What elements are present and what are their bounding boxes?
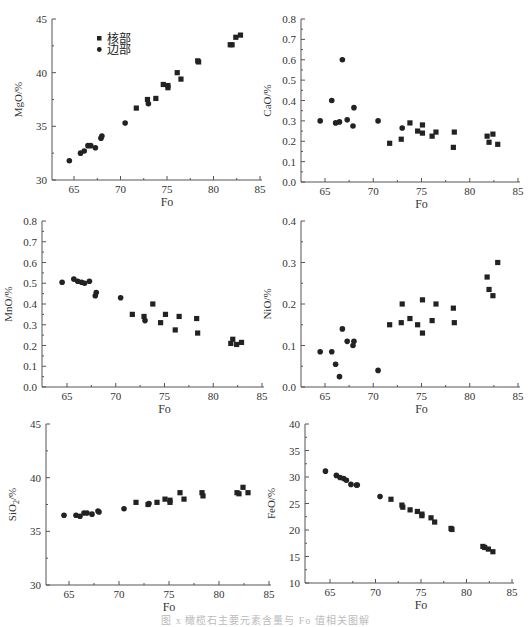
data-point <box>200 493 205 498</box>
data-point <box>173 327 178 332</box>
x-axis-label: Fo <box>415 598 428 612</box>
data-point <box>452 129 457 134</box>
data-point <box>387 141 392 146</box>
data-point <box>348 482 354 488</box>
y-tick-label: 0.1 <box>282 156 296 168</box>
data-point <box>388 497 393 502</box>
y-tick-label: 0.3 <box>282 115 296 127</box>
series-rim <box>317 326 381 379</box>
data-point <box>490 293 495 298</box>
chart-nio: 65707580850.00.10.20.30.4FoNiO/% <box>261 215 524 416</box>
y-tick-label: 0.0 <box>282 381 296 393</box>
data-point <box>399 137 404 142</box>
data-point <box>194 316 199 321</box>
data-point <box>344 477 350 483</box>
legend-rim-label: 边部 <box>107 42 131 57</box>
data-point <box>495 142 500 147</box>
x-tick-label: 80 <box>208 390 220 402</box>
data-point <box>146 501 152 507</box>
data-point <box>161 82 166 87</box>
data-point <box>340 57 346 63</box>
data-point <box>89 511 95 517</box>
data-point <box>118 295 124 301</box>
data-point <box>245 490 250 495</box>
chart-sio2: 657075808530354045FoSiO2/% <box>6 418 275 614</box>
data-point <box>333 361 339 367</box>
x-tick-label: 80 <box>464 390 476 402</box>
data-point <box>177 314 182 319</box>
data-point <box>99 133 105 139</box>
x-tick-label: 85 <box>507 586 519 598</box>
y-tick-label: 0.6 <box>282 54 296 66</box>
data-point <box>420 330 425 335</box>
data-point <box>486 287 491 292</box>
x-tick-label: 75 <box>164 588 176 600</box>
data-point <box>93 290 99 296</box>
chart-mno: 65707580850.00.10.20.30.40.50.60.70.8FoM… <box>2 215 268 416</box>
x-tick-label: 85 <box>513 390 525 402</box>
x-tick-label: 70 <box>110 390 122 402</box>
y-tick-label: 0.2 <box>23 340 37 352</box>
x-tick-label: 70 <box>115 183 127 195</box>
y-tick-label: 0.8 <box>23 215 37 227</box>
series-core <box>387 120 500 150</box>
y-tick-label: 0.3 <box>23 319 37 331</box>
y-tick-label: 20 <box>289 524 301 536</box>
data-point <box>344 117 350 123</box>
data-point <box>415 509 420 514</box>
x-axis-label: Fo <box>158 402 171 416</box>
data-point <box>433 301 438 306</box>
y-tick-label: 0.5 <box>23 277 37 289</box>
y-tick-label: 0.2 <box>282 298 296 310</box>
data-point <box>234 342 239 347</box>
y-tick-label: 45 <box>36 13 48 25</box>
data-point <box>167 500 172 505</box>
data-point <box>165 85 170 90</box>
figure-caption: 图 x 橄榄石主要元素含量与 Fo 值相关图解 <box>0 612 531 627</box>
x-tick-label: 75 <box>416 586 428 598</box>
y-axis-label: MgO/% <box>12 82 24 117</box>
series-core <box>134 33 243 111</box>
data-point <box>329 98 335 104</box>
data-point <box>377 494 383 500</box>
data-point <box>196 59 201 64</box>
y-axis-label: SiO2/% <box>6 488 21 521</box>
data-point <box>317 349 323 355</box>
x-tick-label: 85 <box>264 588 276 600</box>
data-point <box>317 118 323 124</box>
data-point <box>400 505 405 510</box>
data-point <box>485 274 490 279</box>
data-point <box>449 527 454 532</box>
data-point <box>240 485 245 490</box>
data-point <box>432 519 437 524</box>
y-axis-label: NiO/% <box>261 288 273 319</box>
data-point <box>323 468 329 474</box>
y-tick-label: 0.7 <box>23 236 37 248</box>
data-point <box>181 497 186 502</box>
y-tick-label: 0.5 <box>282 74 296 86</box>
chart-mgo: 657075808530354045FoMgO/%核部边部 <box>12 13 266 209</box>
data-point <box>415 128 420 133</box>
data-point <box>84 510 90 516</box>
data-point <box>407 316 412 321</box>
data-point <box>495 260 500 265</box>
data-point <box>142 318 148 324</box>
y-tick-label: 0.1 <box>282 340 296 352</box>
legend: 核部边部 <box>97 31 131 57</box>
data-point <box>400 301 405 306</box>
series-core <box>130 301 244 347</box>
data-point <box>420 122 425 127</box>
data-point <box>146 101 152 107</box>
x-tick-label: 75 <box>416 185 428 197</box>
y-tick-label: 10 <box>289 577 301 589</box>
y-tick-label: 30 <box>30 579 42 591</box>
y-tick-label: 0.3 <box>282 257 296 269</box>
data-point <box>87 278 93 284</box>
data-point <box>344 339 350 345</box>
data-point <box>195 330 200 335</box>
data-point <box>407 507 412 512</box>
y-tick-label: 35 <box>36 120 48 132</box>
x-axis-label: Fo <box>415 402 428 416</box>
y-tick-label: 35 <box>289 445 301 457</box>
